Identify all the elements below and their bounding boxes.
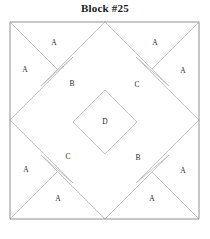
patch-label-c1: C <box>134 80 139 89</box>
seam-line-diamond-bottom-right-edge <box>105 122 137 154</box>
patch-label-b2: B <box>135 153 140 162</box>
seam-line-edge-right-bottom-fan <box>136 120 199 183</box>
seam-line-edge-left-bottom-fan <box>10 120 73 183</box>
seam-line-diamond-bottom-left-edge <box>73 122 105 154</box>
seam-line-corner-nw-diagonal <box>10 22 57 69</box>
patch-label-c2: C <box>65 152 70 161</box>
seam-line-edge-bottom-right-fan <box>105 155 169 219</box>
quilt-block-page: Block #25 AAAABCDCBAAAA <box>0 0 210 239</box>
seam-line-edge-top-right-fan <box>105 22 169 86</box>
patch-labels-group: AAAABCDCBAAAA <box>22 38 186 203</box>
seam-line-edge-left-top-fan <box>10 57 73 120</box>
patch-label-a8: A <box>149 194 155 203</box>
seam-line-edge-top-left-fan <box>41 22 105 86</box>
patch-label-a7: A <box>55 194 61 203</box>
seam-line-diamond-top-right-edge <box>105 90 137 122</box>
patch-label-a4: A <box>180 66 186 75</box>
seam-line-edge-right-top-fan <box>136 57 199 120</box>
patch-label-a2: A <box>152 38 158 47</box>
seam-line-rect-b1-outer <box>41 57 73 86</box>
quilt-block-canvas: AAAABCDCBAAAA <box>0 0 210 239</box>
patch-label-d: D <box>102 117 108 126</box>
seam-line-corner-ne-diagonal <box>152 22 199 69</box>
seam-line-corner-se-diagonal <box>152 172 199 219</box>
seam-line-rect-c1-outer <box>136 57 169 86</box>
seam-line-diamond-top-left-edge <box>73 90 105 122</box>
patch-label-b1: B <box>69 79 74 88</box>
patch-label-a3: A <box>22 65 28 74</box>
seam-line-edge-bottom-left-fan <box>41 155 105 219</box>
seam-line-corner-sw-diagonal <box>10 172 57 219</box>
patch-label-a1: A <box>51 38 57 47</box>
seam-line-rect-b2-outer <box>136 155 169 183</box>
patch-label-a5: A <box>23 165 29 174</box>
patch-label-a6: A <box>180 166 186 175</box>
